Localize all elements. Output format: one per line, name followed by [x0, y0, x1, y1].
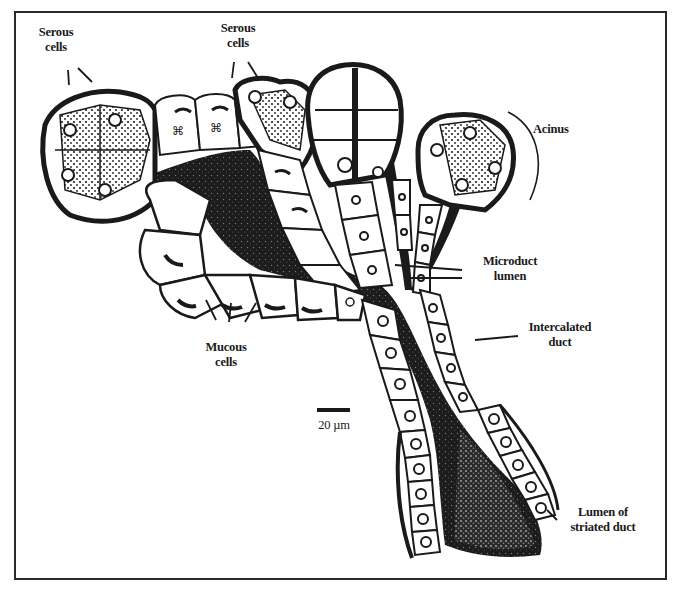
- label-line: Acinus: [533, 122, 569, 137]
- label-line: cells: [30, 40, 82, 55]
- label-serous-cells-left: Serous cells: [30, 25, 82, 55]
- label-line: Serous: [212, 21, 264, 36]
- label-line: cells: [212, 36, 264, 51]
- label-line: Lumen of: [558, 505, 648, 520]
- gland-illustration: ⌘ ⌘: [0, 0, 677, 589]
- central-mucous-acinus: [308, 65, 402, 185]
- label-scale-bar: 20 µm: [306, 418, 362, 433]
- label-line: lumen: [472, 269, 548, 284]
- label-line: Serous: [30, 25, 82, 40]
- label-line: striated duct: [558, 520, 648, 535]
- scale-bar: [317, 408, 350, 412]
- label-serous-cells-top: Serous cells: [212, 21, 264, 51]
- label-line: duct: [520, 335, 600, 350]
- label-lumen-striated-duct: Lumen of striated duct: [558, 505, 648, 535]
- serous-acinus-right: [418, 112, 538, 210]
- label-mucous-cells: Mucous cells: [198, 340, 254, 370]
- svg-text:⌘: ⌘: [172, 124, 184, 138]
- label-intercalated-duct: Intercalated duct: [520, 320, 600, 350]
- serous-acinus-left: [43, 91, 155, 221]
- scale-bar-text: 20 µm: [306, 418, 362, 433]
- svg-text:⌘: ⌘: [210, 121, 222, 135]
- label-line: Intercalated: [520, 320, 600, 335]
- label-line: cells: [198, 355, 254, 370]
- label-line: Mucous: [198, 340, 254, 355]
- label-line: Microduct: [472, 254, 548, 269]
- label-acinus: Acinus: [533, 122, 569, 137]
- label-microduct-lumen: Microduct lumen: [472, 254, 548, 284]
